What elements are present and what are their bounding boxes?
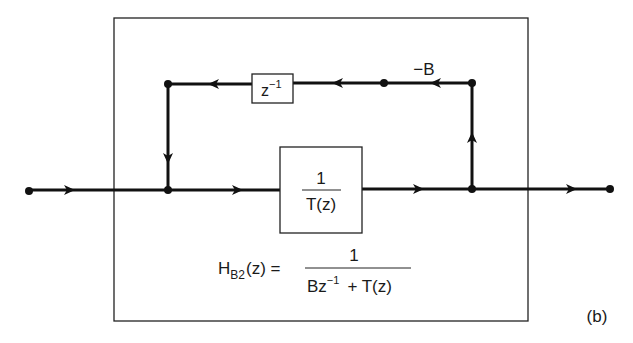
- figure-label: (b): [587, 307, 608, 326]
- signal-flow-diagram: z−1 1 T(z) −B HB2(z) = 1 Bz−1+ T(z) (b): [0, 0, 633, 343]
- branch-node: [468, 185, 476, 193]
- feedback-corner-left-node: [164, 80, 172, 88]
- gain-node: [380, 79, 388, 87]
- transfer-denominator: T(z): [306, 195, 336, 214]
- feedback-corner-right-node: [468, 79, 476, 87]
- formula-numerator: 1: [349, 246, 358, 265]
- formula-denominator: Bz−1+ T(z): [307, 274, 392, 296]
- formula-lhs: HB2(z) =: [218, 259, 281, 282]
- sum-node: [164, 186, 172, 194]
- gain-label: −B: [413, 60, 434, 79]
- output-node: [606, 185, 614, 193]
- input-node: [25, 187, 33, 195]
- transfer-numerator: 1: [316, 169, 325, 188]
